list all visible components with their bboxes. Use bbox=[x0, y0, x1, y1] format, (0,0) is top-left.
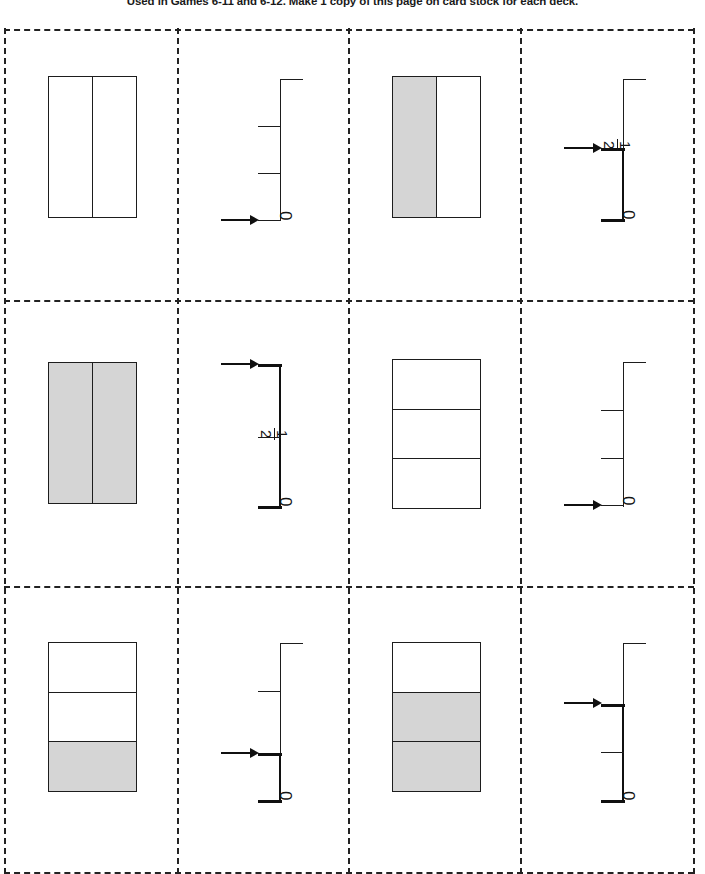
bar-part bbox=[436, 77, 480, 217]
number-line: 0 bbox=[177, 586, 348, 872]
number-line-axis bbox=[280, 79, 281, 221]
number-line-axis bbox=[623, 362, 624, 507]
tick-mark-1 bbox=[258, 753, 282, 756]
tick-mark-1 bbox=[601, 752, 624, 753]
area-model-bar bbox=[48, 362, 137, 504]
value-arrow bbox=[564, 500, 602, 510]
number-line-axis bbox=[623, 643, 624, 706]
card-3[interactable] bbox=[348, 29, 520, 300]
worksheet-page: Used in Games 6-11 and 6-12. Make 1 copy… bbox=[0, 0, 705, 874]
area-model-bar bbox=[392, 642, 481, 792]
number-line-label-zero: 0 bbox=[620, 791, 637, 800]
bar-part bbox=[49, 741, 136, 791]
tick-mark-3 bbox=[281, 79, 303, 80]
number-line: 0 bbox=[520, 300, 693, 586]
value-arrow bbox=[221, 215, 259, 225]
card-9[interactable] bbox=[4, 586, 177, 872]
bar-part bbox=[393, 360, 480, 409]
area-model-bar bbox=[392, 359, 481, 509]
bar-part bbox=[92, 77, 136, 217]
cut-line-vertical-5 bbox=[693, 28, 695, 874]
value-arrow bbox=[221, 748, 259, 758]
bar-part bbox=[49, 77, 92, 217]
card-1[interactable] bbox=[4, 29, 177, 300]
fraction-numerator: 1 bbox=[275, 428, 290, 440]
fraction-one-half: 1 2 bbox=[258, 428, 290, 440]
number-line-label-zero: 0 bbox=[620, 496, 637, 505]
page-header-note: Used in Games 6-11 and 6-12. Make 1 copy… bbox=[0, 0, 705, 7]
card-8[interactable]: 0 bbox=[520, 300, 693, 586]
tick-mark-3 bbox=[624, 362, 646, 363]
number-line-label-half: 1 2 bbox=[601, 139, 633, 151]
tick-mark-2 bbox=[258, 126, 281, 127]
bar-part bbox=[393, 409, 480, 459]
number-line-label-zero: 0 bbox=[277, 791, 294, 800]
tick-mark-2 bbox=[624, 79, 646, 80]
bar-part bbox=[49, 643, 136, 692]
fraction-denominator: 2 bbox=[258, 428, 274, 440]
tick-mark-1 bbox=[258, 173, 281, 174]
tick-mark-2 bbox=[258, 691, 281, 692]
number-line-axis bbox=[280, 643, 281, 755]
area-model-bar bbox=[392, 76, 481, 218]
bar-part bbox=[393, 77, 436, 217]
area-model-bar bbox=[48, 642, 137, 792]
fraction-numerator: 1 bbox=[618, 139, 633, 151]
card-10[interactable]: 0 bbox=[177, 586, 348, 872]
bar-part bbox=[49, 363, 92, 503]
tick-mark-1 bbox=[601, 458, 624, 459]
number-line-label-half: 1 2 bbox=[258, 428, 290, 440]
card-5[interactable] bbox=[4, 300, 177, 586]
bar-part bbox=[92, 363, 136, 503]
card-4[interactable]: 0 1 2 bbox=[520, 29, 693, 300]
card-6[interactable]: 0 1 2 bbox=[177, 300, 348, 586]
tick-mark-3 bbox=[624, 643, 646, 644]
bar-part bbox=[49, 692, 136, 742]
value-arrow bbox=[564, 698, 602, 708]
bar-part bbox=[393, 692, 480, 742]
fraction-one-half: 1 2 bbox=[601, 139, 633, 151]
card-7[interactable] bbox=[348, 300, 520, 586]
fraction-denominator: 2 bbox=[601, 139, 617, 151]
tick-mark-2 bbox=[601, 410, 624, 411]
value-arrow bbox=[564, 143, 602, 153]
card-11[interactable] bbox=[348, 586, 520, 872]
number-line-label-zero: 0 bbox=[277, 211, 294, 220]
number-line-label-zero: 0 bbox=[620, 210, 637, 219]
tick-mark-2 bbox=[601, 704, 625, 707]
number-line: 0 bbox=[177, 29, 348, 300]
tick-mark-3 bbox=[281, 643, 303, 644]
number-line-label-zero: 0 bbox=[277, 497, 294, 506]
bar-part bbox=[393, 458, 480, 508]
card-12[interactable]: 0 bbox=[520, 586, 693, 872]
value-arrow bbox=[221, 359, 259, 369]
bar-part bbox=[393, 643, 480, 692]
number-line: 0 1 2 bbox=[520, 29, 693, 300]
bar-part bbox=[393, 741, 480, 791]
number-line: 0 1 2 bbox=[177, 300, 348, 586]
tick-mark-2 bbox=[258, 364, 282, 367]
area-model-bar bbox=[48, 76, 137, 218]
number-line-axis-bold bbox=[622, 705, 624, 802]
card-2[interactable]: 0 bbox=[177, 29, 348, 300]
number-line: 0 bbox=[520, 586, 693, 872]
